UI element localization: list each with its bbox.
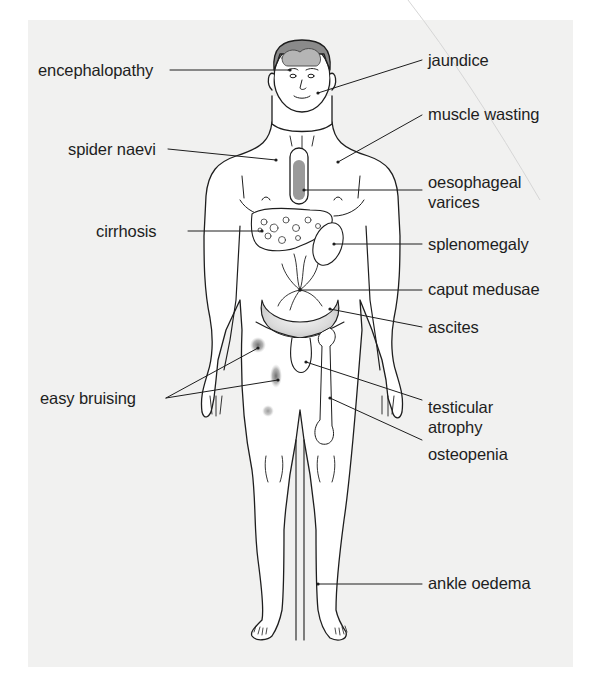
label-caput-medusae: caput medusae (428, 279, 540, 299)
label-oesophageal-varices-line1: oesophageal (428, 172, 521, 192)
label-ankle-oedema: ankle oedema (428, 573, 530, 593)
label-easy-bruising: easy bruising (40, 388, 136, 408)
label-jaundice: jaundice (428, 50, 489, 70)
label-oesophageal-varices-line2: varices (428, 192, 521, 212)
label-testicular-atrophy-line1: testicular (428, 397, 493, 417)
brain-outline (282, 49, 321, 66)
label-osteopenia: osteopenia (428, 444, 508, 464)
label-encephalopathy: encephalopathy (38, 60, 153, 80)
label-oesophageal-varices: oesophageal varices (428, 172, 521, 212)
scrotum (291, 338, 312, 373)
leader-muscle-wasting (338, 115, 422, 162)
label-testicular-atrophy: testicular atrophy (428, 397, 493, 437)
label-splenomegaly: splenomegaly (428, 234, 529, 254)
label-ascites: ascites (428, 317, 479, 337)
label-muscle-wasting: muscle wasting (428, 104, 539, 124)
label-testicular-atrophy-line2: atrophy (428, 417, 493, 437)
label-spider-naevi: spider naevi (68, 139, 156, 159)
label-cirrhosis: cirrhosis (96, 221, 157, 241)
